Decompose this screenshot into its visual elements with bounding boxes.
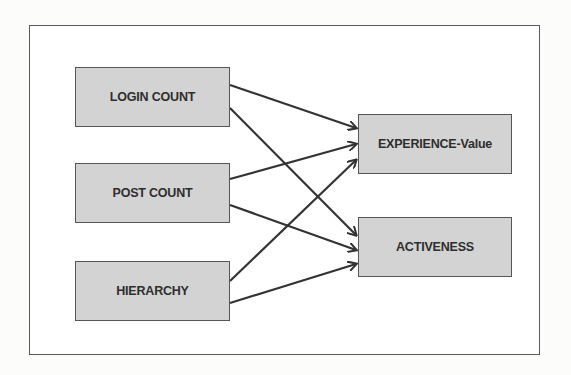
arrow-post-to-act bbox=[230, 205, 356, 250]
node-login-count: LOGIN COUNT bbox=[75, 67, 230, 127]
node-label: EXPERIENCE-Value bbox=[378, 137, 492, 151]
node-label: LOGIN COUNT bbox=[110, 90, 195, 104]
node-label: ACTIVENESS bbox=[396, 240, 474, 254]
node-label: POST COUNT bbox=[113, 186, 193, 200]
node-activeness: ACTIVENESS bbox=[358, 217, 512, 277]
arrow-post-to-exp bbox=[230, 144, 356, 179]
node-hierarchy: HIERARCHY bbox=[75, 261, 230, 321]
arrow-login-to-exp bbox=[230, 85, 356, 128]
arrow-hier-to-exp bbox=[230, 160, 356, 281]
node-post-count: POST COUNT bbox=[75, 163, 230, 223]
arrow-hier-to-act bbox=[230, 264, 356, 303]
arrow-login-to-act bbox=[230, 108, 356, 235]
node-label: HIERARCHY bbox=[116, 284, 189, 298]
node-experience-value: EXPERIENCE-Value bbox=[358, 114, 512, 174]
